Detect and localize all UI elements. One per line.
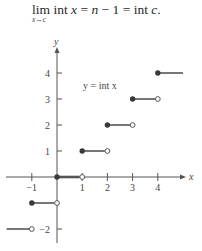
x-axis-label: x [188, 171, 194, 182]
step-function-chart: −11234−21234 y = int x x y [0, 0, 202, 251]
open-endpoint-icon [29, 227, 34, 232]
x-tick-label: 1 [80, 182, 85, 193]
x-tick-label: −1 [26, 182, 37, 193]
y-axis-arrow-icon [55, 47, 60, 53]
function-label: y = int x [83, 80, 117, 91]
y-axis-label: y [53, 36, 59, 47]
x-axis-arrow-icon [180, 175, 186, 180]
x-tick-label: 4 [155, 182, 160, 193]
function-segments [7, 70, 183, 231]
closed-endpoint-icon [80, 148, 85, 153]
open-endpoint-icon [80, 175, 85, 180]
x-tick-label: 3 [130, 182, 135, 193]
open-endpoint-icon [55, 201, 60, 206]
closed-endpoint-icon [105, 122, 110, 127]
y-tick-label: 4 [45, 68, 50, 79]
closed-endpoint-icon [155, 70, 160, 75]
open-endpoint-icon [130, 123, 135, 128]
x-tick-label: 2 [105, 182, 110, 193]
closed-endpoint-icon [29, 200, 34, 205]
y-tick-label: 3 [45, 94, 50, 105]
y-tick-label: 2 [45, 120, 50, 131]
open-endpoint-icon [155, 97, 160, 102]
y-tick-label: −2 [39, 224, 50, 235]
closed-endpoint-icon [130, 96, 135, 101]
closed-endpoint-icon [54, 174, 59, 179]
y-tick-label: 1 [45, 146, 50, 157]
axes [6, 47, 186, 243]
open-endpoint-icon [105, 149, 110, 154]
